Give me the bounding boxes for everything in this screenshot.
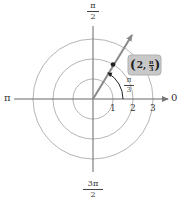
point-label-theta-den: 3	[149, 66, 153, 72]
label-3pi-over-2-den: 2	[83, 190, 103, 199]
label-pi-over-2-num: π	[87, 2, 99, 12]
point-label-r: 2,	[137, 60, 146, 70]
label-3pi-over-2-num: 3π	[83, 180, 103, 190]
point-label-close: )	[155, 58, 161, 72]
label-pi: π	[4, 92, 11, 103]
tick-label-2: 2	[130, 103, 136, 113]
point-label-theta: π 3	[149, 59, 153, 72]
tick-label-3: 3	[150, 103, 156, 113]
label-3pi-over-2: 3π 2	[83, 180, 103, 199]
angle-label-num: π	[124, 77, 134, 86]
label-pi-over-2: π 2	[87, 2, 99, 21]
point-marker	[111, 62, 116, 67]
point-label-open: (	[130, 58, 136, 72]
angle-label-den: 3	[124, 86, 134, 94]
label-zero: 0	[171, 92, 177, 103]
point-label: ( 2, π 3 )	[130, 57, 160, 73]
label-pi-over-2-den: 2	[87, 12, 99, 21]
angle-arc	[108, 73, 123, 99]
angle-label: π 3	[124, 77, 134, 94]
tick-label-1: 1	[110, 103, 116, 113]
